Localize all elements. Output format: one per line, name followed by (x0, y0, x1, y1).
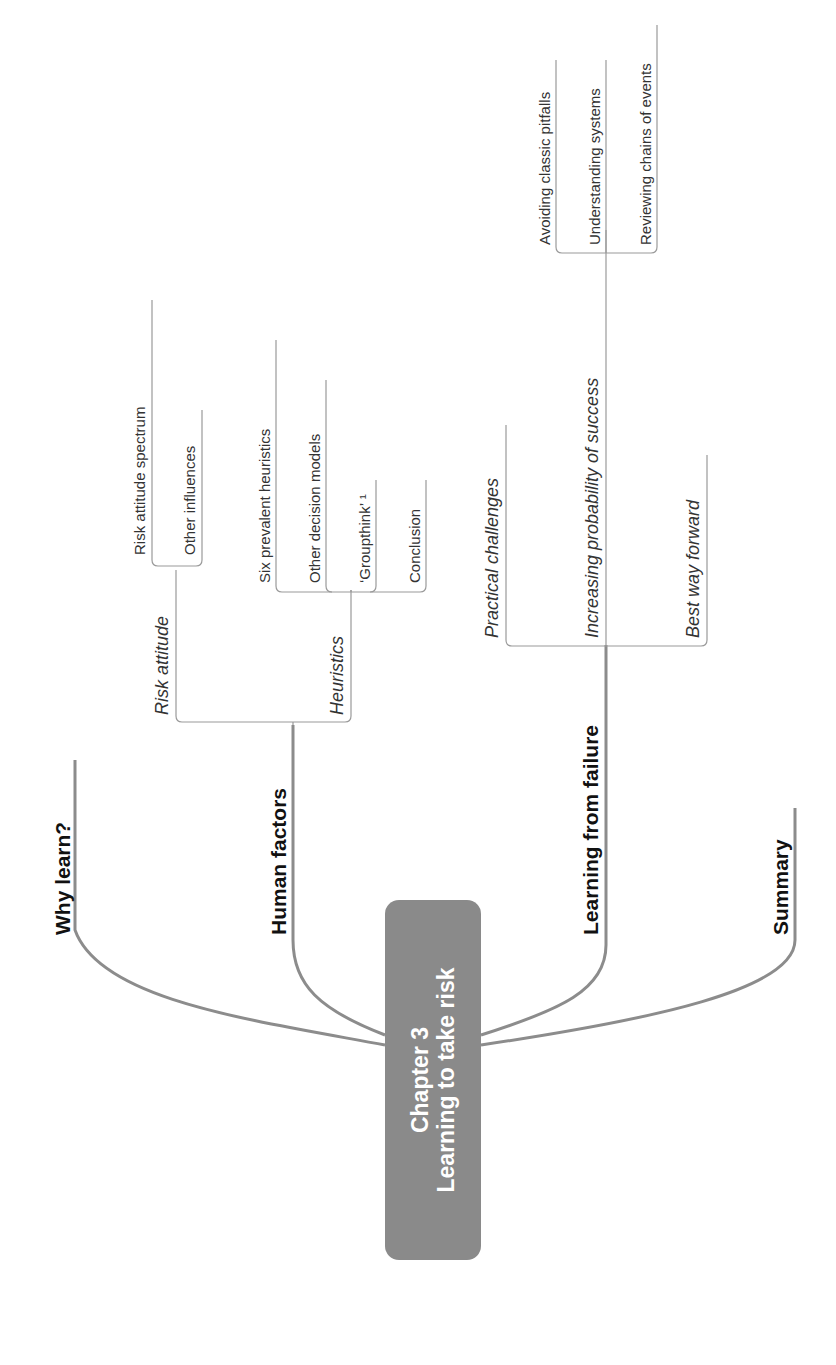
center-title-line2: Learning to take risk (433, 968, 459, 1193)
center-node[interactable]: Chapter 3 Learning to take risk (385, 900, 481, 1260)
node-heuristics[interactable]: Heuristics (328, 636, 346, 715)
leaf-risk-attitude-spectrum[interactable]: Risk attitude spectrum (132, 407, 147, 555)
node-practical-challenges[interactable]: Practical challenges (483, 478, 501, 638)
leaf-other-influences[interactable]: Other influences (182, 446, 197, 555)
connector-human-factors (293, 725, 385, 1035)
leaf-reviewing-chains-of-events[interactable]: Reviewing chains of events (638, 63, 653, 245)
node-increasing-probability-of-success[interactable]: Increasing probability of success (583, 378, 601, 638)
leaf-avoiding-classic-pitfalls[interactable]: Avoiding classic pitfalls (537, 92, 552, 245)
node-risk-attitude[interactable]: Risk attitude (153, 616, 171, 715)
leaf-other-decision-models[interactable]: Other decision models (307, 434, 322, 583)
node-best-way-forward[interactable]: Best way forward (684, 500, 702, 638)
branch-summary[interactable]: Summary (770, 839, 791, 935)
center-title: Chapter 3 Learning to take risk (385, 900, 481, 1260)
connector-why-learn (75, 760, 385, 1045)
branch-learning-from-failure[interactable]: Learning from failure (580, 725, 601, 935)
leaf-six-prevalent-heuristics[interactable]: Six prevalent heuristics (257, 429, 272, 583)
leaf-groupthink[interactable]: ‘Groupthink’ ¹ (357, 494, 372, 583)
leaf-conclusion[interactable]: Conclusion (407, 509, 422, 583)
branch-why-learn[interactable]: Why learn? (52, 822, 73, 935)
connector-summary (481, 808, 795, 1045)
branch-human-factors[interactable]: Human factors (268, 788, 289, 935)
center-title-line1: Chapter 3 (407, 1027, 433, 1133)
leaf-understanding-systems[interactable]: Understanding systems (587, 88, 602, 245)
